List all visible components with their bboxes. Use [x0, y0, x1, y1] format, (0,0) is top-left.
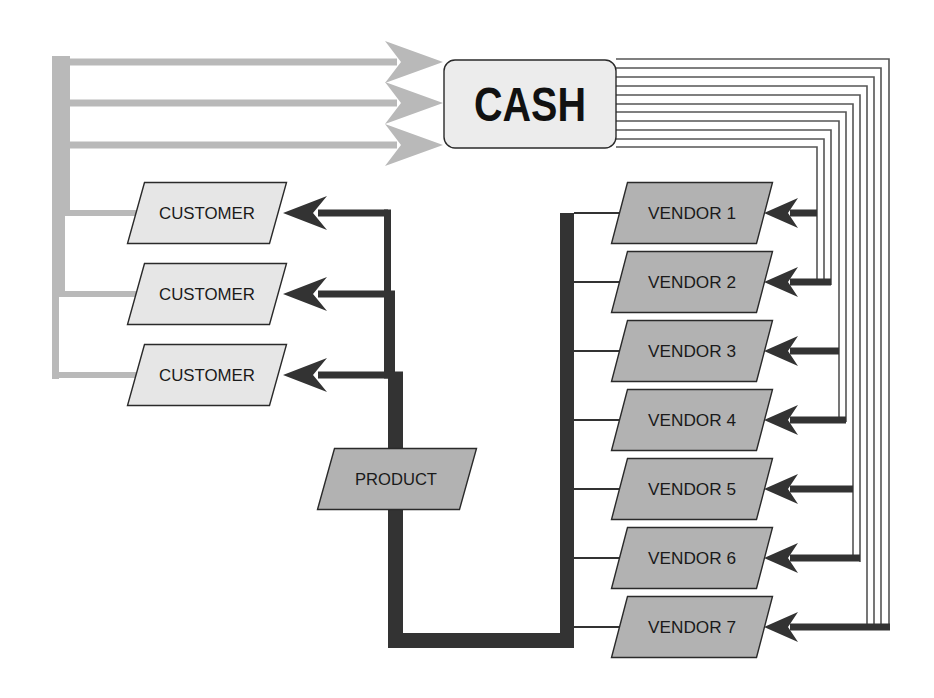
product-label: PRODUCT — [355, 470, 437, 489]
vendor-payment-line — [790, 279, 831, 286]
customer-label: CUSTOMER — [159, 366, 255, 385]
vendor-payment-line — [790, 417, 846, 424]
customer-label: CUSTOMER — [159, 204, 255, 223]
cash-inflow-line — [52, 100, 397, 107]
product-trunk — [384, 210, 391, 298]
vendor-payment-line — [790, 486, 853, 493]
vendor-label: VENDOR 2 — [648, 273, 736, 292]
vendor-label: VENDOR 5 — [648, 480, 736, 499]
cash-label: CASH — [474, 78, 586, 131]
vendor-label: VENDOR 7 — [648, 618, 736, 637]
vendor-payment-line — [790, 624, 890, 631]
vendor-label: VENDOR 1 — [648, 204, 736, 223]
vendor-payment-line — [790, 348, 839, 355]
vendor-supply-trunk — [560, 213, 574, 648]
customer-payment-line — [56, 372, 136, 378]
product-trunk — [384, 291, 395, 379]
cash-inflow-line — [52, 142, 397, 149]
product-delivery-line — [318, 210, 388, 217]
cash-collection-trunk — [52, 213, 65, 297]
vendor-payment-line — [790, 210, 817, 217]
customer-payment-line — [56, 291, 136, 297]
cash-collection-trunk — [52, 56, 70, 216]
product-delivery-line — [318, 372, 388, 379]
product-supply-line — [388, 633, 574, 648]
customer-payment-line — [56, 210, 136, 216]
vendor-payment-line — [790, 555, 860, 562]
product-delivery-line — [318, 291, 388, 298]
cash-flow-diagram: CASHCUSTOMERCUSTOMERCUSTOMERPRODUCTVENDO… — [0, 0, 934, 698]
cash-collection-trunk — [52, 294, 59, 379]
customer-label: CUSTOMER — [159, 285, 255, 304]
cash-inflow-line — [52, 59, 397, 66]
vendor-label: VENDOR 6 — [648, 549, 736, 568]
diagram-nodes: CASHCUSTOMERCUSTOMERCUSTOMERPRODUCTVENDO… — [128, 60, 773, 658]
vendor-label: VENDOR 4 — [648, 411, 736, 430]
vendor-label: VENDOR 3 — [648, 342, 736, 361]
